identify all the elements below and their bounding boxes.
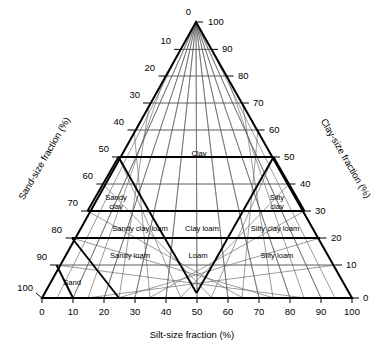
ternary-diagram: 0 10 20 30 40 50 60 70 80 90 100 0 10 20… [0,0,384,356]
region-label-clay-loam: Clay loam [185,224,219,233]
right-tick-10: 10 [346,259,357,270]
right-tick-60: 60 [269,124,280,135]
bottom-axis-tick-labels: 0 10 20 30 40 50 60 70 80 90 100 [39,306,360,317]
left-tick-60: 60 [82,170,93,181]
left-tick-20: 20 [144,62,155,73]
region-label-loam: Loam [189,251,208,260]
left-tick-70: 70 [67,197,78,208]
region-label-sandy-clay-1: Sandy [105,193,127,202]
right-tick-80: 80 [238,70,249,81]
region-label-sand: Sand [63,278,81,287]
right-tick-0: 0 [363,292,368,303]
region-label-silty-clay-2: clay [270,202,284,211]
bottom-tick-70: 70 [254,306,265,317]
bottom-tick-90: 90 [316,306,327,317]
right-tick-50: 50 [284,151,295,162]
bottom-tick-20: 20 [99,306,110,317]
left-tick-90: 90 [36,251,47,262]
region-label-silty-loam: Silty loam [261,251,294,260]
left-tick-80: 80 [51,224,62,235]
bottom-tick-30: 30 [130,306,141,317]
bottom-tick-60: 60 [223,306,234,317]
right-axis-title: Clay-size fraction (%) [319,116,374,200]
bottom-axis-title: Silt-size fraction (%) [150,329,234,340]
left-tick-100: 100 [17,282,33,293]
bottom-tick-40: 40 [161,306,172,317]
region-label-silty-clay-loam: Silty clay loam [251,224,300,233]
left-tick-30: 30 [129,89,140,100]
right-tick-90: 90 [222,43,233,54]
bottom-tick-80: 80 [285,306,296,317]
right-tick-20: 20 [331,232,342,243]
bottom-tick-10: 10 [68,306,79,317]
right-tick-100: 100 [208,16,224,27]
bottom-tick-50: 50 [192,306,203,317]
region-label-sandy-clay-loam: Sandy clay loam [112,224,168,233]
left-axis-title: Sand-size fraction (%) [16,115,72,201]
region-label-sandy-loam: Sandy loam [110,251,150,260]
bottom-tick-0: 0 [39,306,44,317]
right-tick-40: 40 [300,178,311,189]
right-tick-70: 70 [253,97,264,108]
left-tick-50: 50 [98,143,109,154]
region-label-clay: Clay [191,149,206,158]
region-label-silty-clay-1: Silty [270,193,285,202]
grid-lines-sand-mirror [57,49,306,298]
ternary-plot-svg: 0 10 20 30 40 50 60 70 80 90 100 0 10 20… [0,0,384,356]
right-tick-30: 30 [315,205,326,216]
left-tick-40: 40 [113,116,124,127]
left-tick-0: 0 [186,6,191,17]
region-label-sandy-clay-2: clay [109,202,123,211]
tick-marks [36,22,359,303]
grid-lines-silt-mirror [87,49,336,298]
bottom-tick-100: 100 [344,306,360,317]
left-tick-10: 10 [160,35,171,46]
